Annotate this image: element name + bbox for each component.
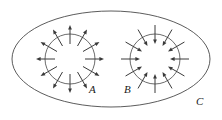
region-label-b: B [124,83,131,95]
regions-group [36,25,189,93]
labels-group: A B C [88,83,204,107]
region-label-a: A [88,83,96,95]
diagram-canvas: A B C [0,0,222,120]
flux-diagram-figure: A B C [0,0,222,120]
sink-region-flux-arrows [121,25,189,93]
boundary-label-c: C [196,95,204,107]
sink-region [121,25,189,93]
